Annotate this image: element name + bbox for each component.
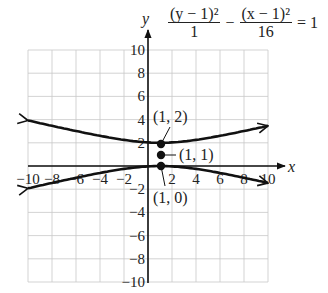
vertex-point-lower [157, 162, 165, 170]
center-point [157, 151, 165, 159]
svg-text:8: 8 [138, 65, 146, 81]
equation: (y − 1)² 1 − (x − 1)² 16 = 1 [165, 5, 320, 40]
svg-text:−4: −4 [129, 204, 145, 220]
svg-text:−2: −2 [129, 181, 145, 197]
term1-numerator: (y − 1)² [168, 5, 220, 23]
svg-text:10: 10 [130, 42, 145, 58]
svg-text:6: 6 [138, 88, 146, 104]
equals-one: = 1 [297, 14, 318, 32]
svg-text:−6: −6 [129, 228, 145, 244]
svg-text:10: 10 [261, 171, 276, 187]
svg-text:−8: −8 [129, 251, 145, 267]
vertex-upper-label: (1, 2) [153, 108, 188, 126]
vertex-lower-label: (1, 0) [153, 189, 188, 207]
term1-denominator: 1 [190, 23, 198, 40]
x-axis-label: x [287, 158, 295, 175]
fraction-term2: (x − 1)² 16 [240, 5, 292, 40]
vertex-point-upper [157, 140, 165, 148]
svg-text:4: 4 [192, 171, 200, 187]
term2-denominator: 16 [258, 23, 274, 40]
svg-text:4: 4 [138, 112, 146, 128]
minus-sign: − [225, 14, 234, 32]
svg-text:−10: −10 [122, 274, 145, 290]
hyperbola-chart: x y −10−8−6−4−2246810 108642−2−4−6−8−10 … [0, 0, 328, 293]
svg-text:2: 2 [168, 171, 176, 187]
y-axis-label: y [140, 10, 150, 28]
x-tick-labels: −10−8−6−4−2246810 [16, 171, 275, 187]
term2-numerator: (x − 1)² [240, 5, 292, 23]
center-label: (1, 1) [179, 146, 214, 164]
fraction-term1: (y − 1)² 1 [168, 5, 220, 40]
svg-text:−10: −10 [16, 171, 39, 187]
